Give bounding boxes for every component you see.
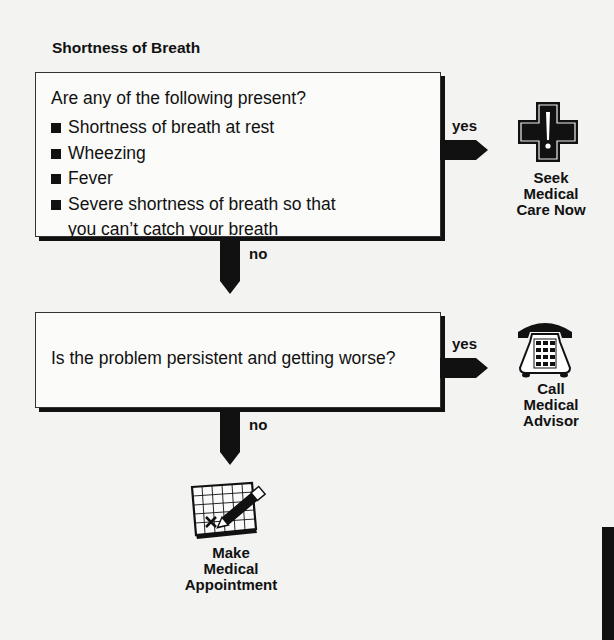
yes-arrow-2-icon: [440, 355, 492, 381]
no-label-1: no: [249, 245, 267, 262]
medical-cross-icon: [516, 100, 580, 164]
telephone-icon: [514, 318, 576, 380]
yes-arrow-1-icon: [440, 137, 492, 163]
no-label-2: no: [249, 416, 267, 433]
yes-label-1: yes: [452, 117, 477, 134]
outcome-seek-care-now: Seek Medical Care Now: [506, 170, 596, 218]
outcome-call-medical-advisor: Call Medical Advisor: [506, 381, 596, 429]
bleed-through-text: [400, 44, 480, 68]
square-bullet-icon: [51, 174, 61, 184]
page-edge-tab: [602, 527, 614, 640]
question-box-1: Are any of the following present? Shortn…: [35, 72, 441, 237]
square-bullet-icon: [51, 123, 61, 133]
no-arrow-2-icon: [217, 410, 243, 468]
calendar-pencil-icon: [190, 481, 274, 543]
question-box-2: Is the problem persistent and getting wo…: [35, 312, 441, 408]
page-title: Shortness of Breath: [52, 39, 200, 57]
square-bullet-icon: [51, 149, 61, 159]
yes-label-2: yes: [452, 335, 477, 352]
list-item: Wheezing: [51, 141, 368, 167]
outcome-make-appointment: Make Medical Appointment: [176, 545, 286, 593]
list-item: Fever: [51, 166, 368, 192]
list-item: Severe shortness of breath so that you c…: [51, 192, 368, 243]
list-item: Shortness of breath at rest: [51, 115, 368, 141]
square-bullet-icon: [51, 200, 61, 210]
question-2-prompt: Is the problem persistent and getting wo…: [51, 346, 395, 370]
no-arrow-1-icon: [217, 239, 243, 297]
symptom-list: Shortness of breath at rest Wheezing Fev…: [51, 115, 368, 243]
question-1-prompt: Are any of the following present?: [51, 86, 306, 110]
